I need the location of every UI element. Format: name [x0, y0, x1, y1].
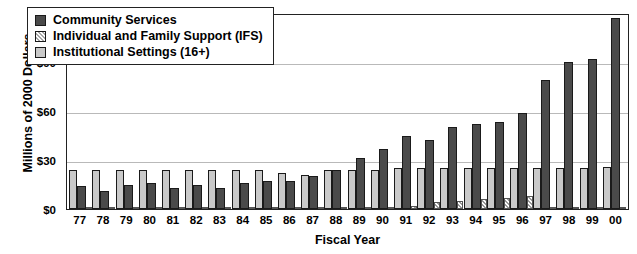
bar-cs-93	[448, 127, 457, 209]
bar-inst-85	[255, 170, 263, 209]
x-tick-label: 96	[511, 214, 534, 230]
x-tick-label: 98	[557, 214, 580, 230]
bar-inst-82	[185, 170, 193, 209]
bar-ifs-91	[411, 206, 417, 209]
bar-group	[301, 15, 324, 209]
bar-cs-87	[309, 176, 318, 209]
bar-cs-78	[100, 191, 109, 209]
bar-ifs-00	[620, 207, 626, 209]
legend-label: Individual and Family Support (IFS)	[53, 29, 263, 43]
bar-ifs-95	[504, 198, 510, 209]
bar-cs-85	[263, 181, 272, 209]
y-tick-label: $60	[12, 107, 56, 117]
bar-ifs-77	[86, 207, 92, 209]
bar-ifs-87	[318, 207, 324, 209]
bar-group	[510, 15, 533, 209]
x-tick-label: 99	[581, 214, 604, 230]
bar-inst-99	[580, 168, 588, 209]
x-tick-label: 83	[208, 214, 231, 230]
legend-item: Community Services	[35, 12, 263, 28]
bar-inst-92	[417, 168, 425, 209]
bar-cs-86	[286, 181, 295, 209]
bar-group	[487, 15, 510, 209]
bar-cs-99	[588, 59, 597, 209]
x-tick-label: 97	[534, 214, 557, 230]
bar-inst-83	[208, 170, 216, 209]
y-tick-label: $30	[12, 156, 56, 166]
bar-ifs-97	[550, 207, 556, 209]
x-tick-label: 87	[301, 214, 324, 230]
bar-inst-88	[324, 170, 332, 209]
bar-cs-83	[216, 188, 225, 209]
bar-cs-97	[541, 80, 550, 209]
bar-ifs-92	[434, 202, 440, 209]
legend-swatch-ifs-icon	[35, 31, 46, 42]
bar-inst-90	[371, 170, 379, 209]
bar-group	[533, 15, 556, 209]
x-tick-label: 95	[487, 214, 510, 230]
bar-inst-98	[556, 168, 564, 209]
bar-cs-95	[495, 122, 504, 209]
bar-ifs-81	[179, 207, 185, 209]
x-tick-label: 91	[394, 214, 417, 230]
bar-cs-81	[170, 188, 179, 209]
x-tick-label: 89	[348, 214, 371, 230]
bar-ifs-99	[597, 207, 603, 209]
bar-cs-96	[518, 113, 527, 209]
x-tick-label: 94	[464, 214, 487, 230]
bar-cs-98	[564, 62, 573, 209]
bar-ifs-98	[573, 207, 579, 209]
bar-inst-84	[232, 170, 240, 209]
bar-inst-96	[510, 168, 518, 209]
y-tick-label: $0	[12, 205, 56, 215]
bar-inst-95	[487, 168, 495, 209]
x-tick-label: 88	[324, 214, 347, 230]
legend-item: Individual and Family Support (IFS)	[35, 28, 263, 44]
bar-ifs-84	[249, 207, 255, 209]
bar-cs-77	[77, 186, 86, 209]
x-axis-title: Fiscal Year	[66, 233, 629, 247]
bar-cs-82	[193, 185, 202, 210]
legend-label: Community Services	[53, 13, 177, 27]
bar-group	[394, 15, 417, 209]
x-tick-label: 82	[184, 214, 207, 230]
bar-ifs-82	[202, 207, 208, 209]
legend-swatch-cs-icon	[35, 15, 46, 26]
bar-ifs-83	[225, 207, 231, 209]
bar-group	[603, 15, 626, 209]
bar-group	[463, 15, 486, 209]
bar-inst-00	[603, 167, 611, 209]
bar-inst-89	[348, 170, 356, 209]
bar-ifs-85	[272, 207, 278, 209]
bar-ifs-86	[295, 207, 301, 209]
bar-inst-86	[278, 173, 286, 209]
legend-label: Institutional Settings (16+)	[53, 45, 210, 59]
bar-cs-90	[379, 149, 388, 209]
x-tick-label: 77	[68, 214, 91, 230]
bar-ifs-90	[388, 207, 394, 209]
bar-ifs-94	[481, 199, 487, 209]
bar-inst-94	[464, 168, 472, 209]
bar-ifs-89	[365, 207, 371, 209]
x-tick-label: 79	[115, 214, 138, 230]
bar-ifs-96	[527, 196, 533, 209]
bar-group	[440, 15, 463, 209]
x-tick-label: 90	[371, 214, 394, 230]
bar-ifs-80	[156, 207, 162, 209]
x-tick-label: 93	[441, 214, 464, 230]
chart-legend: Community ServicesIndividual and Family …	[27, 7, 274, 65]
x-tick-label: 86	[278, 214, 301, 230]
bar-chart: Millions of 2000 Dollars $0$30$60$90$120…	[0, 0, 637, 254]
legend-swatch-inst-icon	[35, 47, 46, 58]
bar-inst-81	[162, 170, 170, 209]
bar-cs-89	[356, 158, 365, 209]
bar-cs-88	[332, 170, 341, 209]
bar-ifs-79	[133, 207, 139, 209]
x-tick-label: 85	[254, 214, 277, 230]
bar-cs-84	[240, 183, 249, 209]
bar-cs-79	[124, 185, 133, 210]
bar-cs-91	[402, 136, 411, 210]
bar-cs-92	[425, 140, 434, 209]
bar-group	[278, 15, 301, 209]
bar-group	[347, 15, 370, 209]
